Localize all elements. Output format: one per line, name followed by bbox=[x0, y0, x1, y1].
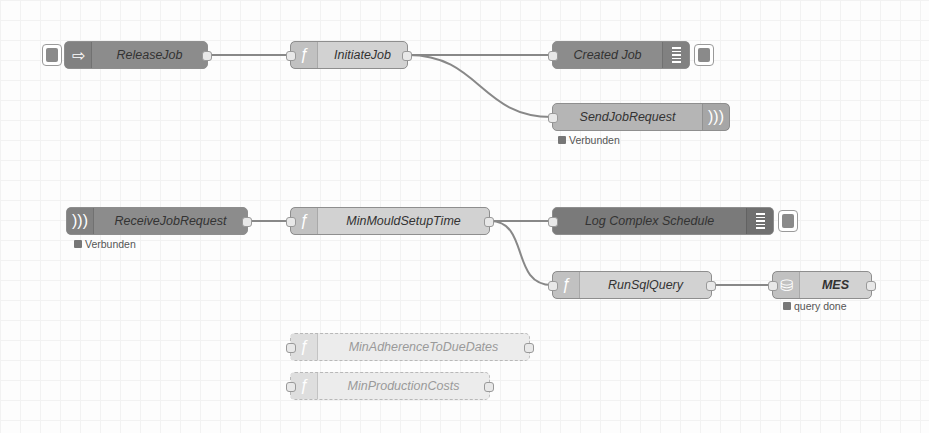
node-label: InitiateJob bbox=[318, 48, 407, 62]
output-port[interactable] bbox=[202, 51, 212, 61]
node-label: MinAdherenceToDueDates bbox=[318, 340, 529, 354]
debug-toggle-button[interactable] bbox=[694, 44, 714, 66]
node-status: Verbunden bbox=[558, 134, 620, 146]
websocket-out-icon: ))) bbox=[702, 104, 729, 130]
websocket-in-icon: ))) bbox=[67, 208, 94, 234]
input-port[interactable] bbox=[548, 51, 558, 61]
node-created-job[interactable]: Created Job bbox=[552, 41, 690, 69]
input-port[interactable] bbox=[286, 217, 296, 227]
node-label: Created Job bbox=[553, 48, 662, 62]
node-receive-job-request[interactable]: ))) ReceiveJobRequest bbox=[66, 207, 248, 235]
debug-icon bbox=[746, 208, 773, 234]
node-log-complex-schedule[interactable]: Log Complex Schedule bbox=[552, 207, 774, 235]
node-min-adherence-to-due-dates[interactable]: ƒ MinAdherenceToDueDates bbox=[290, 333, 530, 361]
input-port[interactable] bbox=[286, 51, 296, 61]
status-dot-icon bbox=[74, 240, 82, 248]
node-release-job[interactable]: ⇨ ReleaseJob bbox=[64, 41, 208, 69]
status-text: query done bbox=[794, 300, 847, 312]
node-min-production-costs[interactable]: ƒ MinProductionCosts bbox=[290, 372, 490, 400]
input-port[interactable] bbox=[286, 382, 296, 392]
input-port[interactable] bbox=[548, 281, 558, 291]
output-port[interactable] bbox=[484, 382, 494, 392]
node-label: MinProductionCosts bbox=[318, 379, 489, 393]
inject-arrow-icon: ⇨ bbox=[65, 42, 92, 68]
node-label: MES bbox=[800, 278, 871, 292]
node-send-job-request[interactable]: SendJobRequest ))) bbox=[552, 103, 730, 131]
input-port[interactable] bbox=[768, 281, 778, 291]
input-port[interactable] bbox=[548, 113, 558, 123]
status-dot-icon bbox=[558, 136, 566, 144]
node-label: RunSqlQuery bbox=[580, 278, 711, 292]
output-port[interactable] bbox=[866, 281, 876, 291]
node-mes[interactable]: ⛁ MES bbox=[772, 271, 872, 299]
node-initiate-job[interactable]: ƒ InitiateJob bbox=[290, 41, 408, 69]
node-status: Verbunden bbox=[74, 238, 136, 250]
status-text: Verbunden bbox=[85, 238, 136, 250]
output-port[interactable] bbox=[484, 217, 494, 227]
node-label: ReleaseJob bbox=[92, 48, 207, 62]
output-port[interactable] bbox=[242, 217, 252, 227]
status-dot-icon bbox=[783, 302, 791, 310]
node-status: query done bbox=[783, 300, 847, 312]
output-port[interactable] bbox=[706, 281, 716, 291]
debug-icon bbox=[662, 42, 689, 68]
debug-toggle-button[interactable] bbox=[778, 210, 798, 232]
node-label: SendJobRequest bbox=[553, 110, 702, 124]
inject-trigger-button[interactable] bbox=[42, 44, 62, 66]
input-port[interactable] bbox=[286, 343, 296, 353]
output-port[interactable] bbox=[524, 343, 534, 353]
node-label: Log Complex Schedule bbox=[553, 214, 746, 228]
node-label: MinMouldSetupTime bbox=[318, 214, 489, 228]
node-min-mould-setup-time[interactable]: ƒ MinMouldSetupTime bbox=[290, 207, 490, 235]
node-label: ReceiveJobRequest bbox=[94, 214, 247, 228]
node-run-sql-query[interactable]: ƒ RunSqlQuery bbox=[552, 271, 712, 299]
output-port[interactable] bbox=[402, 51, 412, 61]
input-port[interactable] bbox=[548, 217, 558, 227]
status-text: Verbunden bbox=[569, 134, 620, 146]
